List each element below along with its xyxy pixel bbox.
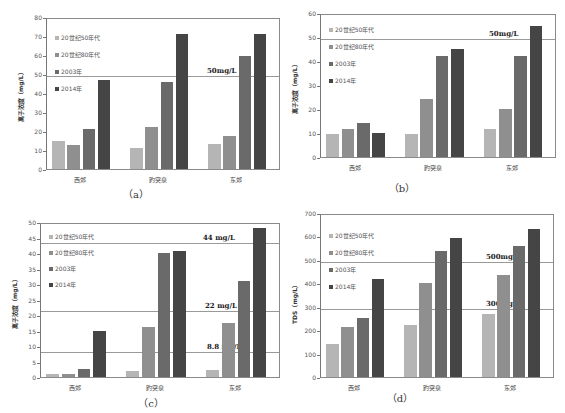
y-tick-label: 30 — [18, 281, 36, 288]
reference-line — [41, 243, 279, 244]
y-tick-mark — [37, 378, 40, 379]
bar-趵突泉-20世纪50年代 — [126, 371, 139, 377]
bar-趵突泉-20世纪50年代 — [405, 134, 418, 157]
x-category-label: 西郊 — [335, 163, 375, 172]
bar-东郊-2014年 — [253, 228, 266, 377]
legend-item: 2003年 — [49, 264, 76, 273]
bar-西郊-2003年 — [357, 123, 370, 157]
bar-西郊-20世纪50年代 — [52, 141, 64, 169]
reference-line-label: 50mg/L — [207, 66, 237, 75]
bar-西郊-20世纪50年代 — [46, 374, 59, 377]
legend-label: 2014年 — [335, 283, 356, 290]
x-category-label: 东郊 — [216, 175, 256, 184]
y-tick-label: 300 — [298, 304, 316, 311]
y-tick-mark — [317, 308, 320, 309]
bar-东郊-20世纪50年代 — [208, 144, 220, 169]
legend-item: 20世纪50年代 — [329, 25, 374, 34]
y-tick-label: 15 — [18, 328, 36, 335]
y-tick-label: 50 — [298, 34, 316, 41]
bar-趵突泉-2014年 — [451, 49, 464, 157]
bar-趵突泉-20世纪50年代 — [404, 325, 416, 377]
y-tick-mark — [317, 110, 320, 111]
bar-西郊-20世纪80年代 — [341, 327, 353, 377]
y-tick-mark — [37, 301, 40, 302]
bar-趵突泉-20世纪80年代 — [419, 283, 431, 377]
y-tick-label: 200 — [298, 327, 316, 334]
y-tick-label: 0 — [24, 166, 42, 173]
legend-swatch-icon — [55, 87, 59, 91]
y-tick-label: 10 — [18, 343, 36, 350]
legend-label: 20世纪80年代 — [61, 51, 100, 58]
y-tick-mark — [317, 62, 320, 63]
y-tick-mark — [317, 261, 320, 262]
y-axis-label: 离子浓度（mg/L） — [16, 69, 25, 122]
x-category-label: 趵突泉 — [138, 175, 178, 184]
y-tick-label: 40 — [298, 58, 316, 65]
x-category-label: 东郊 — [215, 383, 255, 392]
legend-label: 20世纪50年代 — [335, 232, 374, 239]
legend-item: 20世纪80年代 — [329, 248, 374, 257]
bar-西郊-20世纪50年代 — [326, 344, 338, 377]
legend-label: 20世纪50年代 — [335, 26, 374, 33]
x-category-label: 东郊 — [490, 383, 530, 392]
y-axis-label: TDS（mg/L） — [290, 282, 299, 324]
legend-label: 20世纪50年代 — [61, 34, 100, 41]
y-tick-mark — [43, 132, 46, 133]
y-tick-label: 80 — [24, 14, 42, 21]
bar-趵突泉-2014年 — [450, 238, 462, 377]
legend-item: 20世纪50年代 — [329, 231, 374, 240]
y-tick-mark — [317, 38, 320, 39]
y-tick-mark — [43, 94, 46, 95]
y-tick-mark — [37, 270, 40, 271]
y-tick-mark — [37, 332, 40, 333]
bar-趵突泉-20世纪80年代 — [145, 127, 157, 169]
legend-item: 2014年 — [329, 76, 356, 85]
y-tick-label: 100 — [298, 351, 316, 358]
legend-swatch-icon — [55, 70, 59, 74]
y-tick-label: 30 — [298, 82, 316, 89]
x-category-label: 趵突泉 — [135, 383, 175, 392]
bar-西郊-2003年 — [78, 369, 91, 377]
y-tick-mark — [43, 56, 46, 57]
bar-趵突泉-2003年 — [435, 251, 447, 378]
bar-东郊-20世纪80年代 — [497, 275, 509, 377]
bar-东郊-2003年 — [238, 281, 251, 377]
legend-swatch-icon — [329, 285, 333, 289]
bar-东郊-2003年 — [513, 246, 525, 377]
x-category-label: 西郊 — [55, 383, 95, 392]
y-tick-label: 30 — [24, 109, 42, 116]
y-tick-mark — [43, 75, 46, 76]
bar-趵突泉-20世纪80年代 — [420, 99, 433, 157]
bar-东郊-20世纪80年代 — [223, 136, 235, 169]
legend-swatch-icon — [329, 62, 333, 66]
y-tick-label: 500 — [298, 257, 316, 264]
bar-西郊-20世纪80年代 — [62, 374, 75, 377]
chart-plot-area-2: 44 mg/L22 mg/L8.8 mg/L20世纪50年代20世纪80年代20… — [40, 223, 280, 378]
x-category-label: 东郊 — [492, 163, 532, 172]
bar-西郊-20世纪50年代 — [326, 134, 339, 157]
y-tick-label: 600 — [298, 233, 316, 240]
y-tick-mark — [317, 158, 320, 159]
legend-label: 20世纪80年代 — [335, 249, 374, 256]
bar-趵突泉-20世纪50年代 — [130, 148, 142, 169]
legend-swatch-icon — [49, 283, 53, 287]
y-tick-mark — [37, 239, 40, 240]
bar-趵突泉-2003年 — [161, 82, 173, 169]
legend-item: 2014年 — [329, 282, 356, 291]
legend-swatch-icon — [329, 268, 333, 272]
bar-西郊-2003年 — [83, 129, 95, 169]
bar-东郊-2003年 — [239, 56, 251, 169]
y-tick-mark — [317, 86, 320, 87]
y-tick-label: 10 — [298, 130, 316, 137]
bar-西郊-2014年 — [93, 331, 106, 378]
bar-趵突泉-20世纪80年代 — [142, 327, 155, 377]
legend-label: 20世纪50年代 — [55, 233, 94, 240]
bar-趵突泉-2014年 — [176, 34, 188, 169]
bar-趵突泉-2003年 — [158, 253, 171, 377]
y-tick-mark — [317, 331, 320, 332]
reference-line — [321, 39, 555, 40]
y-tick-mark — [317, 284, 320, 285]
y-tick-label: 700 — [298, 210, 316, 217]
legend-item: 20世纪50年代 — [55, 33, 100, 42]
legend-swatch-icon — [49, 267, 53, 271]
